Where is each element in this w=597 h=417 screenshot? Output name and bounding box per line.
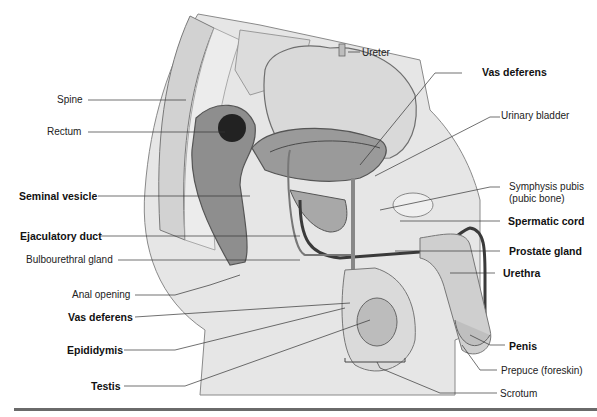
label-ejaculatory-duct: Ejaculatory duct [20, 230, 102, 242]
label-spine: Spine [57, 94, 83, 106]
label-symphysis-pubis-sub: (pubic bone) [509, 193, 565, 205]
label-rectum: Rectum [47, 126, 81, 138]
label-symphysis-pubis: Symphysis pubis [509, 181, 584, 193]
label-seminal-vesicle: Seminal vesicle [19, 190, 97, 202]
anatomy-diagram: Spine Rectum Seminal vesicle Ejaculatory… [0, 0, 597, 417]
label-prepuce: Prepuce (foreskin) [501, 365, 583, 377]
label-prostate-gland: Prostate gland [509, 245, 582, 257]
label-vas-deferens-right: Vas deferens [482, 66, 547, 78]
label-penis: Penis [509, 340, 537, 352]
label-bulbourethral-gland: Bulbourethral gland [26, 254, 113, 266]
label-spermatic-cord: Spermatic cord [508, 215, 584, 227]
label-urethra: Urethra [503, 267, 540, 279]
label-vas-deferens-left: Vas deferens [68, 311, 133, 323]
label-ureter: Ureter [362, 47, 390, 59]
label-urinary-bladder: Urinary bladder [501, 110, 569, 122]
label-anal-opening: Anal opening [72, 289, 130, 301]
bottom-divider [14, 408, 597, 411]
label-epididymis: Epididymis [67, 344, 123, 356]
label-testis: Testis [91, 380, 121, 392]
label-scrotum: Scrotum [500, 388, 537, 400]
